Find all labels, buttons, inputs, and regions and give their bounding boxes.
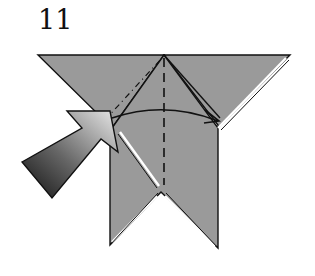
push-arrow-icon (22, 111, 118, 198)
origami-diagram (0, 0, 315, 276)
